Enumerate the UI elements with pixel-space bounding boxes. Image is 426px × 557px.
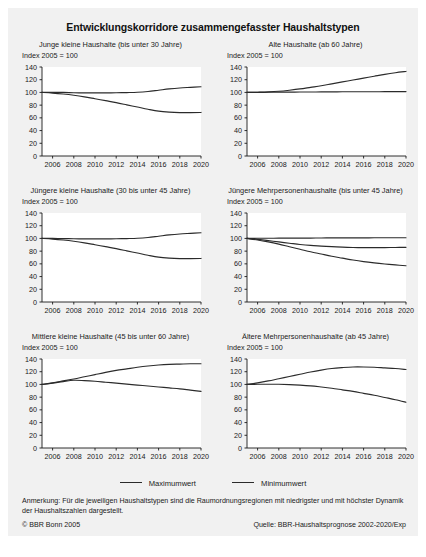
legend-line-icon	[232, 482, 254, 483]
chart-panel-aeltere-mehrpersonenhaushalte: Ältere Mehrpersonenhaushalte (ab 45 Jahr…	[213, 332, 418, 472]
y-tick-label: 80	[234, 247, 242, 256]
chart-subtitle: Index 2005 = 100	[227, 197, 283, 206]
y-tick-label: 20	[29, 285, 37, 294]
x-tick-label: 2016	[151, 452, 167, 461]
chart-subtitle: Index 2005 = 100	[22, 51, 78, 60]
x-tick-label: 2018	[377, 452, 393, 461]
plot-background	[42, 359, 201, 448]
chart-subtitle: Index 2005 = 100	[227, 51, 283, 60]
x-tick-label: 2010	[292, 452, 308, 461]
chart-panel-juengere-mehrpersonenhaushalte: Jüngere Mehrpersonenhaushalte (bis unter…	[213, 186, 418, 326]
y-tick-label: 140	[230, 209, 242, 218]
y-tick-label: 80	[29, 101, 37, 110]
y-tick-label: 60	[29, 259, 37, 268]
y-tick-label: 120	[230, 221, 242, 230]
x-tick-label: 2008	[271, 160, 287, 169]
y-tick-label: 0	[33, 298, 37, 307]
chart-title: Mittlere kleine Haushalte (45 bis unter …	[8, 332, 213, 341]
legend-item-minimumwert: Minimumwert	[232, 478, 306, 488]
plot-area: 0204060801001201402006200820102012201420…	[213, 60, 418, 180]
chart-credits: © BBR Bonn 2005 Quelle: BBR-Haushaltspro…	[22, 521, 406, 531]
x-tick-label: 2020	[398, 306, 414, 315]
chart-subtitle: Index 2005 = 100	[22, 197, 78, 206]
x-tick-label: 2016	[356, 160, 372, 169]
legend-label: Maximumwert	[149, 479, 196, 488]
y-tick-label: 100	[230, 380, 242, 389]
x-tick-label: 2020	[193, 452, 209, 461]
y-tick-label: 40	[29, 418, 37, 427]
y-tick-label: 100	[230, 234, 242, 243]
x-tick-label: 2006	[250, 160, 266, 169]
x-tick-label: 2012	[108, 452, 124, 461]
legend-line-icon	[120, 482, 142, 483]
y-tick-label: 80	[29, 393, 37, 402]
y-tick-label: 140	[25, 209, 37, 218]
y-tick-label: 0	[238, 152, 242, 161]
chart-subtitle: Index 2005 = 100	[22, 343, 78, 352]
x-tick-label: 2006	[250, 452, 266, 461]
x-tick-label: 2016	[356, 306, 372, 315]
chart-svg: 0204060801001201402006200820102012201420…	[213, 60, 418, 180]
x-tick-label: 2016	[151, 306, 167, 315]
y-tick-label: 140	[230, 355, 242, 364]
chart-title: Junge kleine Haushalte (bis unter 30 Jah…	[8, 40, 213, 49]
plot-background	[247, 67, 406, 156]
y-tick-label: 0	[238, 298, 242, 307]
plot-background	[42, 213, 201, 302]
chart-title: Jüngere kleine Haushalte (30 bis unter 4…	[8, 186, 213, 195]
x-tick-label: 2014	[129, 306, 145, 315]
y-tick-label: 120	[25, 367, 37, 376]
x-tick-label: 2006	[45, 452, 61, 461]
x-tick-label: 2020	[398, 452, 414, 461]
chart-panel-junge-kleine-haushalte: Junge kleine Haushalte (bis unter 30 Jah…	[8, 40, 213, 180]
y-tick-label: 80	[29, 247, 37, 256]
x-tick-label: 2012	[313, 160, 329, 169]
y-tick-label: 60	[234, 259, 242, 268]
y-tick-label: 20	[29, 431, 37, 440]
y-tick-label: 60	[29, 113, 37, 122]
x-tick-label: 2014	[334, 306, 350, 315]
source-text: Quelle: BBR-Haushaltsprognose 2002-2020/…	[253, 521, 406, 531]
chart-panel-juengere-kleine-haushalte: Jüngere kleine Haushalte (30 bis unter 4…	[8, 186, 213, 326]
legend-item-maximumwert: Maximumwert	[120, 478, 196, 488]
series-line-maximumwert	[247, 238, 406, 239]
x-tick-label: 2012	[108, 306, 124, 315]
copyright-text: © BBR Bonn 2005	[22, 521, 80, 531]
x-tick-label: 2020	[193, 160, 209, 169]
chart-title: Jüngere Mehrpersonenhaushalte (bis unter…	[213, 186, 418, 195]
plot-area: 0204060801001201402006200820102012201420…	[8, 206, 213, 326]
y-tick-label: 120	[230, 367, 242, 376]
x-tick-label: 2014	[334, 160, 350, 169]
chart-panel-alte-haushalte: Alte Haushalte (ab 60 Jahre) Index 2005 …	[213, 40, 418, 180]
plot-area: 0204060801001201402006200820102012201420…	[213, 206, 418, 326]
page-title: Entwicklungskorridore zusammengefasster …	[8, 8, 418, 34]
plot-area: 0204060801001201402006200820102012201420…	[213, 352, 418, 472]
x-tick-label: 2018	[377, 306, 393, 315]
y-tick-label: 20	[234, 139, 242, 148]
x-tick-label: 2006	[250, 306, 266, 315]
x-tick-label: 2010	[292, 306, 308, 315]
x-tick-label: 2018	[377, 160, 393, 169]
plot-area: 0204060801001201402006200820102012201420…	[8, 352, 213, 472]
y-tick-label: 100	[230, 88, 242, 97]
y-tick-label: 120	[230, 75, 242, 84]
x-tick-label: 2020	[398, 160, 414, 169]
x-tick-label: 2018	[172, 160, 188, 169]
y-tick-label: 120	[25, 75, 37, 84]
x-tick-label: 2018	[172, 306, 188, 315]
plot-background	[247, 359, 406, 448]
figure-panel: Entwicklungskorridore zusammengefasster …	[8, 8, 418, 536]
legend-label: Minimumwert	[261, 479, 306, 488]
y-tick-label: 40	[234, 126, 242, 135]
x-tick-label: 2010	[87, 452, 103, 461]
chart-svg: 0204060801001201402006200820102012201420…	[8, 206, 213, 326]
y-tick-label: 40	[29, 272, 37, 281]
chart-title: Ältere Mehrpersonenhaushalte (ab 45 Jahr…	[213, 332, 418, 341]
y-tick-label: 60	[234, 405, 242, 414]
x-tick-label: 2008	[66, 306, 82, 315]
x-tick-label: 2012	[108, 160, 124, 169]
chart-svg: 0204060801001201402006200820102012201420…	[8, 60, 213, 180]
x-tick-label: 2008	[271, 306, 287, 315]
x-tick-label: 2020	[193, 306, 209, 315]
x-tick-label: 2014	[129, 160, 145, 169]
